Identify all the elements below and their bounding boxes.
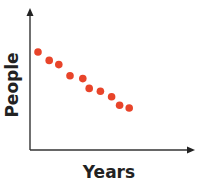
data-point: [66, 72, 74, 80]
data-point: [85, 85, 93, 93]
data-point: [125, 104, 133, 112]
data-points: [34, 48, 133, 112]
x-axis: [30, 147, 195, 154]
data-point: [55, 61, 63, 69]
y-axis-arrow-icon: [27, 8, 34, 16]
x-axis-label: Years: [82, 162, 135, 182]
y-axis-label: People: [2, 52, 22, 117]
data-point: [116, 101, 124, 109]
x-axis-arrow-icon: [187, 147, 195, 154]
scatter-chart: Years People: [0, 0, 202, 185]
data-point: [45, 57, 53, 65]
data-point: [34, 48, 42, 56]
data-point: [97, 87, 105, 95]
y-axis: [27, 8, 34, 150]
data-point: [79, 75, 87, 83]
data-point: [108, 93, 116, 101]
